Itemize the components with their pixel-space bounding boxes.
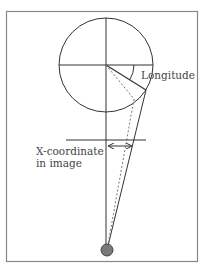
longitude-label: Longitude [141, 69, 195, 81]
x-coordinate-label-line2: in image [36, 157, 82, 169]
x-coordinate-label-line1: X-coordinate [36, 145, 104, 157]
projection-diagram: Longitude X-coordinate in image [0, 0, 209, 278]
diagram-frame [7, 12, 198, 262]
eye-viewpoint [101, 244, 113, 256]
